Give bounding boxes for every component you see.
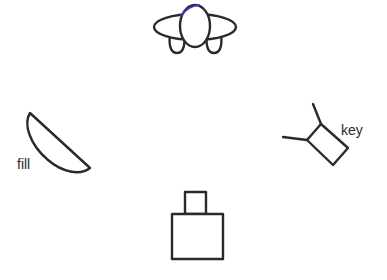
camera-icon <box>172 192 223 259</box>
key-stand-left <box>283 137 307 140</box>
key-stand-upper <box>313 104 321 124</box>
subject-icon <box>154 5 236 53</box>
fill-softbox <box>27 113 90 172</box>
key-label: key <box>341 122 363 138</box>
fill-light-icon <box>27 113 90 172</box>
fill-label: fill <box>17 156 30 172</box>
key-light-icon <box>283 104 348 165</box>
camera-body <box>172 214 223 259</box>
lighting-diagram: fill key <box>0 0 387 280</box>
camera-viewfinder <box>185 192 206 214</box>
